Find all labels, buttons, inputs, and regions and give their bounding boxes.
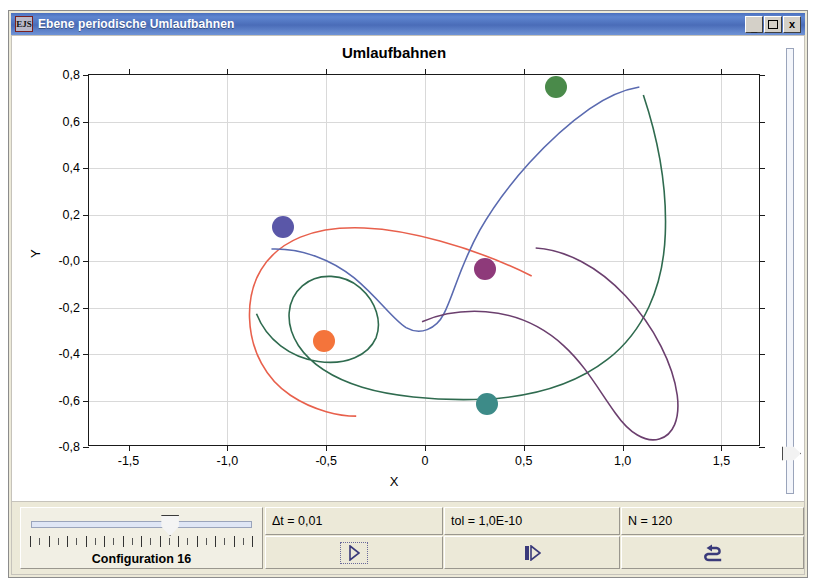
delta-t-field[interactable]: Δt = 0,01 bbox=[265, 507, 443, 535]
slider-tick bbox=[197, 536, 198, 547]
orbit-blue bbox=[271, 87, 639, 331]
slider-tick bbox=[30, 536, 31, 547]
orbit-red bbox=[249, 228, 531, 416]
body-green bbox=[545, 76, 567, 98]
y-axis-tick-label: -0,2 bbox=[58, 301, 80, 315]
x-axis-tick-label: 0 bbox=[422, 454, 429, 468]
y-axis-tick bbox=[759, 308, 765, 309]
y-axis-tick-label: 0,8 bbox=[63, 68, 80, 82]
slider-tick bbox=[169, 538, 170, 545]
maximize-button[interactable] bbox=[764, 16, 782, 33]
window-title: Ebene periodische Umlaufbahnen bbox=[38, 17, 234, 31]
x-axis-tick-label: 0,5 bbox=[515, 454, 532, 468]
slider-tick bbox=[206, 538, 207, 545]
slider-tick bbox=[58, 538, 59, 545]
y-axis-tick-label: -0,0 bbox=[58, 254, 80, 268]
x-axis-tick bbox=[524, 445, 525, 451]
x-axis-tick bbox=[326, 445, 327, 451]
step-forward-icon bbox=[524, 545, 541, 561]
maximize-icon bbox=[768, 20, 778, 29]
slider-tick bbox=[224, 538, 225, 545]
slider-tick bbox=[132, 538, 133, 545]
x-axis-tick-label: -1,5 bbox=[118, 454, 140, 468]
slider-tick bbox=[39, 538, 40, 545]
control-bar: Configuration 16 Δt = 0,01 tol = 1,0E-10… bbox=[12, 501, 804, 574]
steps-field[interactable]: N = 120 bbox=[621, 507, 804, 535]
configuration-label: Configuration 16 bbox=[21, 552, 262, 566]
configuration-slider-track[interactable] bbox=[31, 521, 252, 528]
y-axis-tick bbox=[759, 354, 765, 355]
body-blue bbox=[272, 216, 294, 238]
reset-arrow-icon bbox=[703, 544, 723, 562]
configuration-slider[interactable] bbox=[31, 515, 252, 532]
y-axis-tick-label: 0,2 bbox=[63, 208, 80, 222]
plot-frame: -1,5-1,0-0,500,51,01,50,80,60,40,2-0,0-0… bbox=[88, 74, 760, 446]
reset-button[interactable] bbox=[621, 536, 804, 569]
x-axis-tick-label: -1,0 bbox=[217, 454, 239, 468]
y-axis-tick-label: 0,4 bbox=[63, 161, 80, 175]
slider-tick bbox=[252, 536, 253, 547]
orbit-purple bbox=[422, 248, 678, 440]
slider-tick bbox=[234, 536, 235, 547]
slider-tick bbox=[76, 538, 77, 545]
slider-tick bbox=[104, 536, 105, 547]
x-axis-tick-label: -0,5 bbox=[315, 454, 337, 468]
orbit-plot bbox=[89, 75, 759, 445]
x-axis-tick bbox=[623, 445, 624, 451]
configuration-slider-thumb[interactable] bbox=[159, 515, 181, 536]
slider-tick bbox=[49, 536, 50, 547]
y-axis-tick bbox=[759, 168, 765, 169]
ejs-app-icon: EJS bbox=[15, 16, 33, 32]
slider-tick bbox=[178, 536, 179, 547]
slider-tick bbox=[187, 538, 188, 545]
zoom-slider-track[interactable] bbox=[786, 48, 794, 494]
y-axis-tick-label: -0,8 bbox=[58, 440, 80, 454]
configuration-slider-ticks bbox=[30, 536, 253, 547]
slider-tick bbox=[86, 536, 87, 547]
y-axis-tick-label: 0,6 bbox=[63, 115, 80, 129]
plot-panel[interactable]: Umlaufbahnen Y X -1,5-1,0-0,500,51,01,50… bbox=[12, 36, 776, 502]
zoom-slider[interactable] bbox=[780, 48, 800, 494]
slider-tick bbox=[123, 536, 124, 547]
slider-tick bbox=[150, 538, 151, 545]
y-axis-tick-label: -0,6 bbox=[58, 394, 80, 408]
slider-tick bbox=[160, 536, 161, 547]
slider-tick bbox=[113, 538, 114, 545]
chart-title: Umlaufbahnen bbox=[12, 44, 776, 61]
slider-tick bbox=[95, 538, 96, 545]
y-axis-tick-label: -0,4 bbox=[58, 347, 80, 361]
slider-tick bbox=[67, 536, 68, 547]
configuration-slider-panel[interactable]: Configuration 16 bbox=[20, 507, 263, 569]
client-area: Umlaufbahnen Y X -1,5-1,0-0,500,51,01,50… bbox=[11, 35, 805, 575]
close-button[interactable]: x bbox=[783, 16, 801, 33]
y-axis-tick bbox=[759, 447, 765, 448]
y-axis-tick bbox=[759, 75, 765, 76]
window-buttons: _ x bbox=[745, 16, 805, 33]
x-axis-tick bbox=[129, 445, 130, 451]
x-axis-tick bbox=[425, 445, 426, 451]
y-axis-tick bbox=[759, 215, 765, 216]
play-button[interactable] bbox=[265, 536, 443, 569]
step-button[interactable] bbox=[444, 536, 620, 569]
x-axis-tick bbox=[227, 445, 228, 451]
slider-tick bbox=[141, 536, 142, 547]
x-axis-tick-label: 1,0 bbox=[614, 454, 631, 468]
title-bar[interactable]: EJS Ebene periodische Umlaufbahnen _ x bbox=[11, 13, 805, 35]
slider-tick bbox=[243, 538, 244, 545]
tolerance-field[interactable]: tol = 1,0E-10 bbox=[444, 507, 620, 535]
y-axis-tick bbox=[759, 401, 765, 402]
minimize-button[interactable]: _ bbox=[745, 16, 763, 33]
y-axis-label: Y bbox=[28, 249, 43, 258]
play-button-focus bbox=[340, 542, 368, 564]
y-axis-tick bbox=[759, 122, 765, 123]
y-axis-tick bbox=[83, 447, 89, 448]
slider-tick bbox=[215, 536, 216, 547]
y-axis-tick bbox=[759, 261, 765, 262]
application-window: EJS Ebene periodische Umlaufbahnen _ x U… bbox=[8, 10, 808, 578]
play-icon bbox=[348, 545, 360, 561]
x-axis-tick-label: 1,5 bbox=[713, 454, 730, 468]
x-axis-tick bbox=[721, 445, 722, 451]
x-axis-label: X bbox=[12, 474, 776, 489]
